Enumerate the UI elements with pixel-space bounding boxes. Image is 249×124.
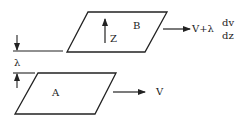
diagram: B Z V+λ dv dz λ A V — [0, 0, 249, 124]
plane-a — [15, 73, 116, 114]
velocity-top-prefix: V+λ — [191, 23, 215, 34]
velocity-bottom-label: V — [155, 86, 164, 97]
plane-a-label: A — [51, 87, 60, 98]
velocity-top-frac-den: dz — [222, 30, 234, 41]
velocity-top-frac-num: dv — [222, 17, 234, 28]
plane-b-label: B — [133, 20, 140, 31]
spacing-label: λ — [14, 57, 21, 68]
z-axis-label: Z — [110, 33, 117, 44]
plane-b — [67, 12, 167, 52]
